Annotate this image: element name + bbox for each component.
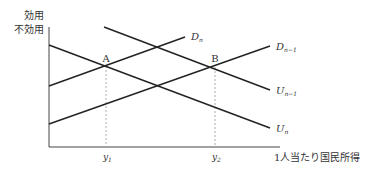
- curve-label-u-n-sub: n: [284, 128, 288, 135]
- curve-label-d-n-main: D: [190, 31, 199, 42]
- point-a-label: A: [101, 53, 110, 64]
- x-tick-y1: y1: [102, 152, 112, 163]
- curve-label-u-n-minus-1: Un−1: [276, 85, 297, 97]
- curve-label-d-n-minus-1-main: D: [275, 41, 284, 52]
- utility-diagram: 効用 不効用 A B y1 y2 1人当たり国民所得 Dn Dn−1 Un−1 …: [0, 0, 369, 170]
- y-axis-label-disutility: 不効用: [14, 23, 44, 35]
- curve-label-u-n: Un: [276, 123, 288, 135]
- curve-label-u-n-minus-1-sub: n−1: [284, 90, 297, 97]
- x-tick-y1-sub: 1: [108, 156, 112, 163]
- x-tick-y2: y2: [211, 152, 221, 163]
- curve-label-d-n-minus-1: Dn−1: [275, 41, 297, 53]
- curve-label-d-n-sub: n: [199, 36, 203, 43]
- curve-d-n: [49, 37, 185, 86]
- curve-u-n-minus-1: [104, 27, 270, 90]
- point-b-label: B: [211, 53, 218, 64]
- x-tick-y2-sub: 2: [216, 156, 221, 163]
- x-axis-label: 1人当たり国民所得: [274, 151, 360, 163]
- curve-label-d-n-minus-1-sub: n−1: [284, 46, 297, 53]
- curve-label-d-n: Dn: [190, 31, 203, 43]
- y-axis-label-utility: 効用: [24, 9, 44, 21]
